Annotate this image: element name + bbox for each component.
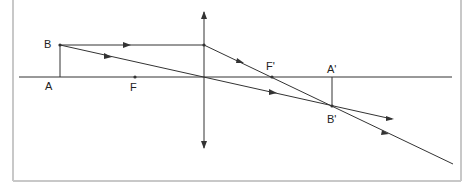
- label-B: B: [44, 38, 51, 50]
- label-A-prime: A': [327, 63, 336, 75]
- arrow-icon: [386, 116, 394, 121]
- point-F: [133, 75, 136, 78]
- ray-diagram: B A F F' A' B': [0, 0, 469, 192]
- point-B-prime: [330, 104, 333, 107]
- label-F: F: [130, 81, 137, 93]
- label-B-prime: B': [327, 113, 336, 125]
- lens-bottom-arrow-icon: [201, 141, 207, 149]
- label-A: A: [45, 80, 53, 92]
- arrow-icon: [123, 42, 131, 48]
- label-F-prime: F': [266, 60, 275, 72]
- lens-top-arrow-icon: [201, 11, 207, 19]
- arrow-icon: [236, 58, 244, 63]
- diagram-canvas: B A F F' A' B': [0, 0, 469, 192]
- point-F-prime: [270, 75, 273, 78]
- arrow-icon: [269, 89, 277, 95]
